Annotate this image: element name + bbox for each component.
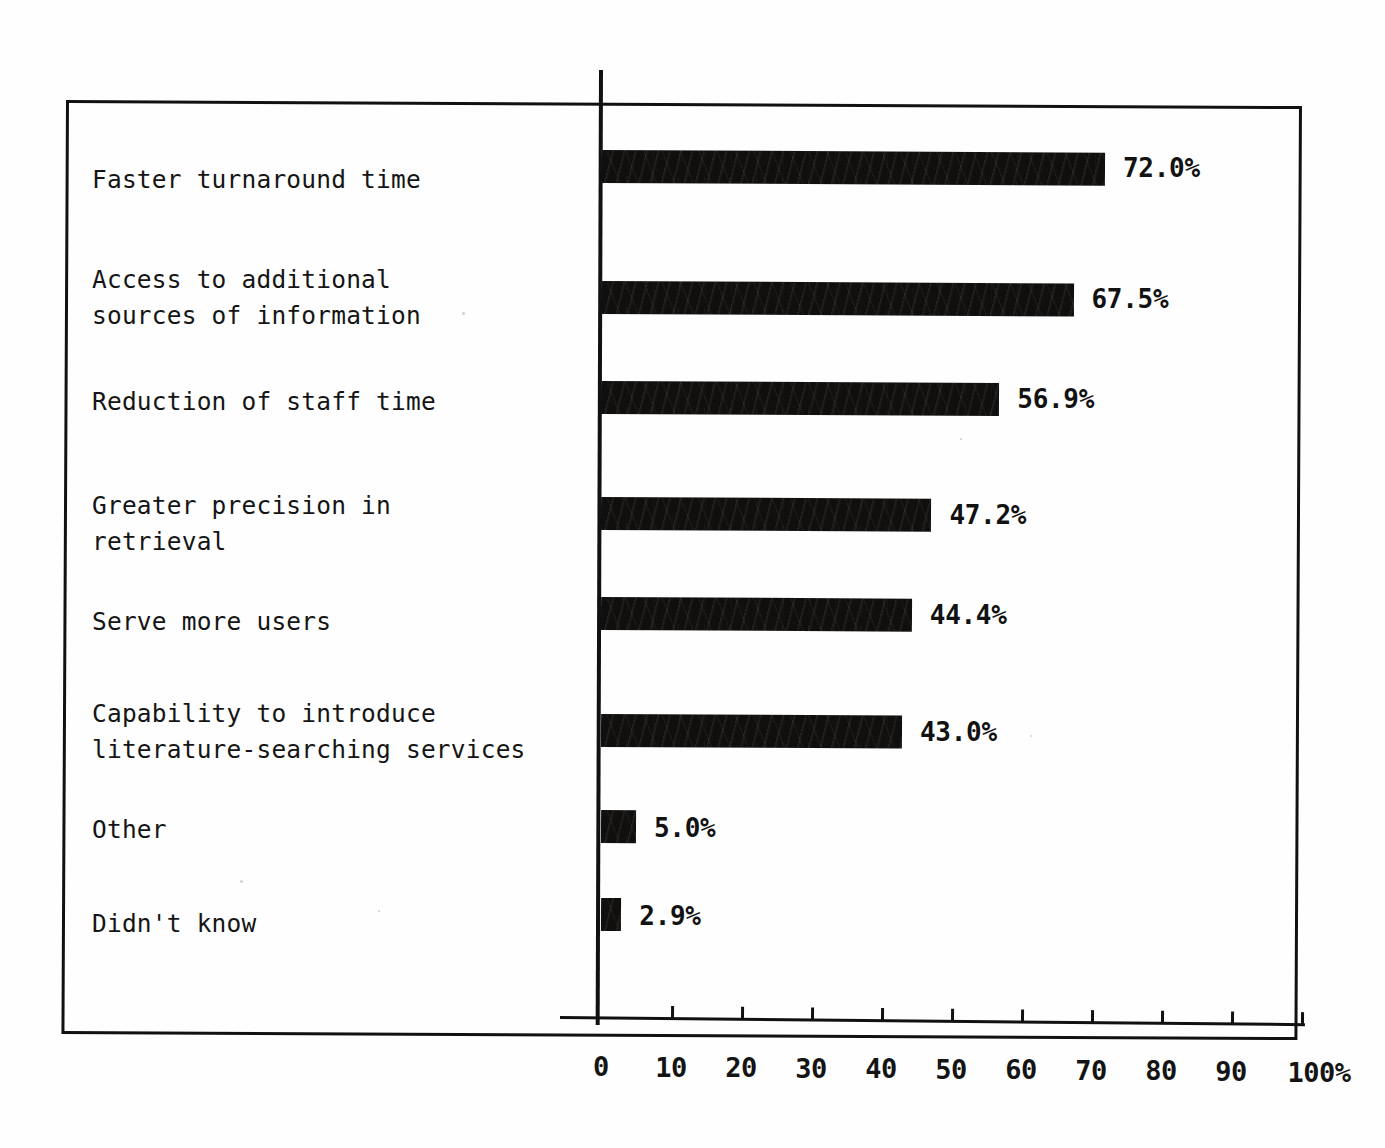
bar[interactable] bbox=[601, 714, 902, 749]
bar[interactable] bbox=[601, 381, 999, 416]
bar-value-label: 5.0% bbox=[654, 813, 715, 843]
bar[interactable] bbox=[601, 150, 1105, 186]
bar-value-label: 2.9% bbox=[639, 901, 700, 931]
category-label: Serve more users bbox=[92, 604, 331, 640]
category-label: Other bbox=[92, 812, 167, 848]
category-label: Reduction of staff time bbox=[92, 384, 436, 420]
category-label: Capability to introduce literature-searc… bbox=[92, 696, 526, 768]
category-label: Greater precision in retrieval bbox=[92, 488, 391, 560]
category-label: Faster turnaround time bbox=[92, 162, 421, 198]
bar-value-label: 44.4% bbox=[930, 600, 1007, 630]
bar[interactable] bbox=[601, 810, 636, 843]
category-label: Didn't know bbox=[92, 906, 256, 942]
bar[interactable] bbox=[601, 898, 621, 931]
bar-value-label: 72.0% bbox=[1123, 153, 1200, 183]
bar[interactable] bbox=[601, 497, 932, 532]
bar-rows-group: Faster turnaround time72.0%Access to add… bbox=[0, 0, 1385, 1148]
category-label: Access to additional sources of informat… bbox=[92, 262, 421, 334]
bar-value-label: 47.2% bbox=[949, 500, 1026, 530]
bar[interactable] bbox=[601, 597, 912, 632]
bar-value-label: 56.9% bbox=[1017, 384, 1094, 414]
bar-value-label: 67.5% bbox=[1092, 284, 1169, 314]
bar[interactable] bbox=[601, 281, 1074, 316]
bar-value-label: 43.0% bbox=[920, 717, 997, 747]
